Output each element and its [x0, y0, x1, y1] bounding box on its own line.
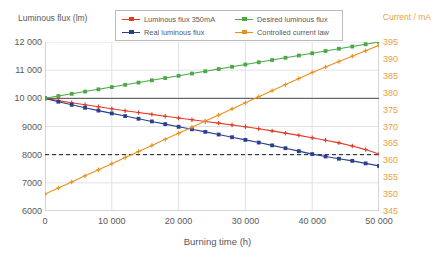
data-point-marker [70, 92, 74, 96]
data-point-marker [310, 51, 314, 55]
data-point-marker [137, 117, 141, 121]
chart-legend: Luminous flux 350mA Desired luminous flu… [115, 10, 343, 41]
data-point-marker [377, 164, 379, 168]
y-axis-left-ticks: 600070008000900010 00011 00012 000 [0, 42, 42, 211]
data-point-marker [83, 90, 87, 94]
x-axis-tick-label: 0 [42, 216, 47, 226]
y-axis-left-tick-label: 10 000 [4, 93, 42, 103]
series-controlled-current-law [45, 43, 379, 196]
data-point-marker [217, 133, 221, 137]
data-point-marker [284, 146, 288, 150]
legend-label: Desired luminous flux [257, 15, 328, 24]
y-axis-left-tick-label: 6000 [4, 206, 42, 216]
y-axis-right-tick-label: 355 [383, 172, 423, 182]
y-axis-left-tick-label: 11 000 [4, 65, 42, 75]
data-point-marker [56, 94, 60, 98]
data-point-marker [97, 109, 101, 113]
data-point-marker [163, 76, 167, 80]
legend-swatch-icon [235, 15, 253, 24]
data-point-marker [324, 49, 328, 53]
data-point-marker [190, 72, 194, 76]
y-axis-left-title: Luminous flux (lm) [18, 13, 87, 23]
data-point-marker [177, 125, 181, 129]
data-point-marker [177, 74, 181, 78]
series-line [45, 98, 379, 166]
x-axis-tick-label: 40 000 [298, 216, 326, 226]
legend-item-luminous-flux-350ma: Luminous flux 350mA [116, 13, 229, 26]
data-point-marker [324, 155, 328, 159]
data-point-marker [97, 87, 101, 91]
x-axis-tick-label: 50 000 [365, 216, 393, 226]
data-point-marker [83, 106, 87, 110]
data-point-marker [364, 42, 368, 46]
y-axis-right-tick-label: 385 [383, 71, 423, 81]
data-point-marker [297, 149, 301, 153]
chart-plot-svg [45, 42, 379, 211]
data-point-marker [270, 58, 274, 62]
data-point-marker [337, 157, 341, 161]
data-point-marker [230, 65, 234, 69]
y-axis-right-tick-label: 365 [383, 138, 423, 148]
data-point-marker [150, 78, 154, 82]
x-axis-title: Burning time (h) [0, 236, 435, 247]
legend-swatch-icon [235, 28, 253, 37]
data-point-marker [137, 81, 141, 85]
data-point-marker [123, 114, 127, 118]
data-point-marker [244, 138, 248, 142]
plot-area [45, 42, 379, 211]
y-axis-right-tick-label: 395 [383, 37, 423, 47]
y-axis-right-tick-label: 345 [383, 206, 423, 216]
data-point-marker [70, 103, 74, 107]
y-axis-right-tick-label: 350 [383, 189, 423, 199]
data-point-marker [123, 83, 127, 87]
data-point-marker [163, 122, 167, 126]
y-axis-left-tick-label: 12 000 [4, 37, 42, 47]
legend-swatch-icon [122, 28, 140, 37]
y-axis-right-tick-label: 380 [383, 88, 423, 98]
data-point-marker [257, 141, 261, 145]
y-axis-left-tick-label: 8000 [4, 150, 42, 160]
data-point-marker [337, 47, 341, 51]
x-axis-tick-label: 30 000 [232, 216, 260, 226]
y-axis-right-tick-label: 375 [383, 105, 423, 115]
data-point-marker [364, 162, 368, 166]
series-real-luminous-flux [45, 96, 379, 167]
y-axis-right-tick-label: 390 [383, 54, 423, 64]
data-point-marker [270, 143, 274, 147]
data-point-marker [350, 159, 354, 163]
data-point-marker [217, 67, 221, 71]
legend-label: Controlled current law [257, 28, 329, 37]
x-axis-tick-label: 20 000 [165, 216, 193, 226]
data-point-marker [150, 120, 154, 124]
data-point-marker [56, 100, 60, 104]
chart-container: Luminous flux (lm) Current / mA Burning … [0, 0, 435, 261]
legend-item-controlled-current-law: Controlled current law [229, 26, 342, 39]
legend-swatch-icon [122, 15, 140, 24]
data-point-marker [310, 152, 314, 156]
data-point-marker [230, 135, 234, 139]
data-point-marker [244, 63, 248, 67]
legend-item-real-luminous-flux: Real luminous flux [116, 26, 229, 39]
series-line [45, 45, 379, 194]
data-point-marker [110, 85, 114, 89]
legend-item-desired-luminous-flux: Desired luminous flux [229, 13, 342, 26]
data-point-marker [110, 112, 114, 116]
y-axis-right-ticks: 345350355360365370375380385390395 [383, 42, 435, 211]
y-axis-right-tick-label: 360 [383, 155, 423, 165]
data-point-marker [350, 45, 354, 49]
data-point-marker [45, 96, 47, 100]
data-point-marker [297, 54, 301, 58]
y-axis-left-tick-label: 7000 [4, 178, 42, 188]
data-point-marker [284, 56, 288, 60]
data-point-marker [203, 130, 207, 134]
legend-label: Real luminous flux [144, 28, 204, 37]
data-point-marker [257, 60, 261, 64]
data-point-marker [203, 69, 207, 73]
x-axis-ticks: 010 00020 00030 00040 00050 000 [45, 216, 379, 230]
y-axis-right-title: Current / mA [383, 12, 431, 22]
x-axis-tick-label: 10 000 [98, 216, 126, 226]
y-axis-right-tick-label: 370 [383, 122, 423, 132]
legend-label: Luminous flux 350mA [144, 15, 215, 24]
y-axis-left-tick-label: 9000 [4, 122, 42, 132]
series-desired-luminous-flux [45, 42, 379, 100]
